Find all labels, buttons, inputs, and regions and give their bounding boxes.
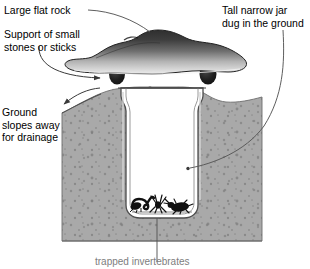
label-tall-narrow-jar: Tall narrow jar dug in the ground [222, 4, 304, 29]
dot-endpoint-icon [186, 167, 189, 170]
leader-line-jar-icon [190, 30, 284, 168]
leader-line-rock-icon [88, 10, 150, 32]
arrow-left-icon [64, 88, 100, 104]
label-bottom-caption: trapped invertebrates [95, 256, 190, 269]
label-large-flat-rock: Large flat rock [4, 4, 71, 17]
label-ground-slopes-away: Ground slopes away for drainage [2, 106, 60, 144]
label-support-of-small-stones: Support of small stones or sticks [4, 28, 80, 53]
